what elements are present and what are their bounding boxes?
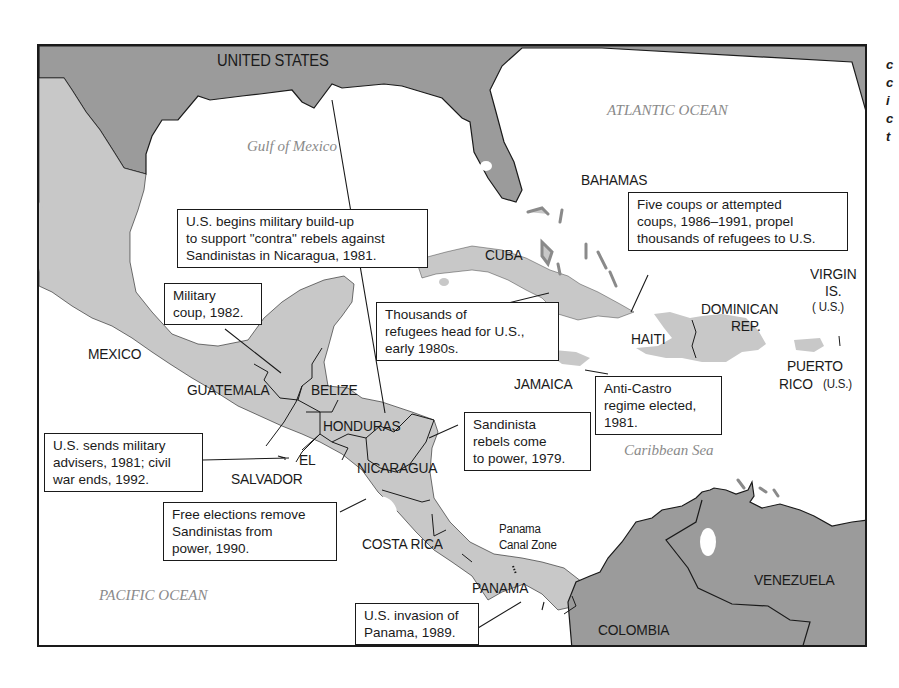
callout-line: Sandinista — [473, 416, 583, 433]
label-el: EL — [299, 452, 316, 467]
callout-line: U.S. sends military — [53, 437, 195, 454]
label-bahamas: BAHAMAS — [581, 172, 647, 187]
label-puerto-2: RICO — [779, 376, 813, 391]
lake-okeechobee — [480, 161, 492, 171]
label-haiti: HAITI — [631, 331, 665, 346]
callout-free-elections: Free elections remove Sandinistas from p… — [163, 502, 337, 561]
label-belize: BELIZE — [311, 382, 357, 397]
label-venezuela: VENEZUELA — [754, 572, 834, 587]
callout-el-salvador: U.S. sends military advisers, 1981; civi… — [44, 433, 203, 492]
callout-panama-invasion: U.S. invasion of Panama, 1989. — [355, 603, 479, 645]
callout-line: U.S. begins military build-up — [186, 213, 420, 230]
label-virgin-2: IS. — [825, 283, 841, 298]
jamaica-land — [554, 350, 590, 366]
label-salvador: SALVADOR — [231, 471, 303, 486]
label-caribbean-sea: Caribbean Sea — [624, 442, 714, 459]
callout-line: thousands of refugees to U.S. — [637, 230, 840, 247]
label-panama-canal-2: Canal Zone — [499, 539, 557, 552]
callout-line: rebels come — [473, 433, 583, 450]
label-panama-canal-1: Panama — [499, 523, 541, 536]
callout-jamaica-regime: Anti-Castro regime elected, 1981. — [595, 376, 722, 435]
side-caption-fragment: c — [886, 74, 893, 92]
label-panama: PANAMA — [472, 580, 528, 595]
callout-line: to support "contra" rebels against — [186, 230, 420, 247]
label-nicaragua: NICARAGUA — [357, 460, 437, 475]
callout-guatemala-coup: Military coup, 1982. — [164, 283, 262, 325]
callout-line: power, 1990. — [172, 540, 329, 557]
callout-line: war ends, 1992. — [53, 471, 195, 488]
callout-line: refugees head for U.S., — [385, 323, 551, 340]
label-dominican-1: DOMINICAN — [701, 301, 778, 316]
callout-line: Free elections remove — [172, 506, 329, 523]
label-puerto-3: (U.S.) — [823, 378, 852, 391]
callout-line: coup, 1982. — [173, 304, 254, 321]
label-honduras: HONDURAS — [323, 418, 401, 433]
callout-sandinista-power: Sandinista rebels come to power, 1979. — [464, 412, 591, 471]
label-atlantic-ocean: ATLANTIC OCEAN — [607, 102, 728, 119]
label-guatemala: GUATEMALA — [187, 382, 269, 397]
label-jamaica: JAMAICA — [514, 376, 573, 391]
label-pacific-ocean: PACIFIC OCEAN — [99, 587, 207, 604]
side-caption-fragment: c — [886, 56, 893, 74]
lake-maracaibo — [700, 528, 716, 556]
puerto-rico-land — [794, 338, 824, 352]
callout-line: 1981. — [604, 414, 714, 431]
united-states-land — [39, 46, 867, 202]
callout-line: Thousands of — [385, 306, 551, 323]
callout-cuba-refugees: Thousands of refugees head for U.S., ear… — [376, 302, 559, 361]
label-costa-rica: COSTA RICA — [362, 536, 443, 551]
virgin-is-leader — [839, 336, 840, 346]
callout-line: early 1980s. — [385, 340, 551, 357]
callout-haiti-coups: Five coups or attempted coups, 1986–1991… — [628, 192, 848, 251]
callout-line: Panama, 1989. — [364, 624, 471, 641]
side-caption-fragment: t — [886, 128, 890, 146]
label-united-states: UNITED STATES — [217, 53, 329, 69]
label-gulf-of-mexico: Gulf of Mexico — [247, 138, 337, 155]
label-mexico: MEXICO — [88, 346, 141, 361]
callout-line: advisers, 1981; civil — [53, 454, 195, 471]
callout-line: Military — [173, 287, 254, 304]
isle-of-youth — [439, 278, 449, 286]
map-frame: UNITED STATES BAHAMAS CUBA MEXICO GUATEM… — [37, 44, 867, 647]
callout-line: coups, 1986–1991, propel — [637, 213, 840, 230]
callout-line: Sandinistas from — [172, 523, 329, 540]
label-colombia: COLOMBIA — [598, 622, 669, 637]
callout-line: regime elected, — [604, 397, 714, 414]
label-virgin-1: VIRGIN — [810, 266, 856, 281]
side-caption-fragment: i — [886, 92, 890, 110]
callout-line: Anti-Castro — [604, 380, 714, 397]
callout-line: to power, 1979. — [473, 450, 583, 467]
callout-line: Sandinistas in Nicaragua, 1981. — [186, 247, 420, 264]
callout-contra: U.S. begins military build-up to support… — [177, 209, 428, 268]
callout-line: U.S. invasion of — [364, 607, 471, 624]
callout-line: Five coups or attempted — [637, 196, 840, 213]
label-puerto-1: PUERTO — [787, 358, 843, 373]
label-dominican-2: REP. — [731, 318, 761, 333]
label-cuba: CUBA — [485, 247, 523, 262]
side-caption-fragment: c — [886, 110, 893, 128]
label-virgin-3: ( U.S.) — [812, 301, 844, 314]
